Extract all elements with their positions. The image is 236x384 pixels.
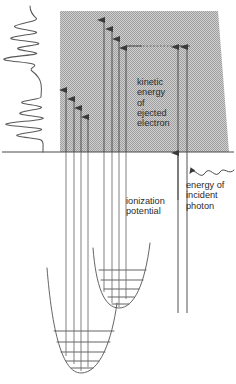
- ionization-potential-label: ionization potential: [126, 196, 170, 217]
- photoelectron-diagram: kinetic energy of ejected electron ioniz…: [0, 0, 236, 384]
- transition-stem-lines: [66, 152, 126, 371]
- photoelectron-spectrum-trace: [4, 6, 44, 152]
- incident-photon-label: energy of incident photon: [186, 180, 234, 211]
- lower-potential-well: [47, 268, 117, 373]
- kinetic-energy-label: kinetic energy of ejected electron: [137, 77, 183, 128]
- upper-potential-well: [93, 243, 150, 308]
- photon-wave-icon: [190, 170, 234, 175]
